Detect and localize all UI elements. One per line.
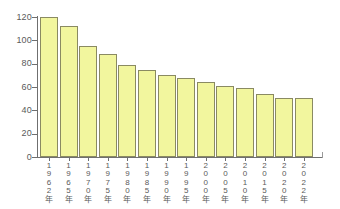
y-axis-tick-label: 0	[0, 153, 32, 162]
y-axis-tick-label: 40	[0, 106, 32, 115]
x-axis-tick-label: 1990年	[158, 162, 176, 204]
bar	[197, 82, 215, 157]
x-axis-tick-label: 2000年	[197, 162, 215, 204]
bar	[99, 54, 117, 157]
bar-column	[177, 12, 195, 157]
x-axis-tick-label: 1962年	[40, 162, 58, 204]
bar-column	[275, 12, 293, 157]
x-axis-tick-label-char: 年	[60, 196, 78, 204]
x-axis-tick-label: 1980年	[118, 162, 136, 204]
bar-column	[197, 12, 215, 157]
bar-chart: 020406080100120 1962年1965年1970年1975年1980…	[0, 0, 340, 209]
x-axis-tick-label-char: 年	[275, 196, 293, 204]
bar-column	[236, 12, 254, 157]
x-axis-tick-label: 2015年	[256, 162, 274, 204]
bar	[79, 46, 97, 157]
x-axis-tick-label-char: 年	[256, 196, 274, 204]
bar	[275, 98, 293, 158]
x-axis-tick-label-char: 年	[138, 196, 156, 204]
bar-column	[138, 12, 156, 157]
bar	[158, 75, 176, 157]
bar	[295, 98, 313, 158]
bar	[256, 94, 274, 157]
bar-column	[256, 12, 274, 157]
y-axis-tick-label: 20	[0, 129, 32, 138]
bar-column	[60, 12, 78, 157]
x-axis-tick-label-char: 年	[79, 196, 97, 204]
x-axis-tick-label: 1965年	[60, 162, 78, 204]
x-axis-end-cap	[322, 152, 323, 158]
y-axis-tick-label: 60	[0, 83, 32, 92]
x-axis-tick-label: 1995年	[177, 162, 195, 204]
bar-column	[158, 12, 176, 157]
x-axis-tick-label-char: 年	[118, 196, 136, 204]
bar	[60, 26, 78, 157]
x-axis-tick-label: 1975年	[99, 162, 117, 204]
x-axis-tick-label: 2020年	[275, 162, 293, 204]
bar-column	[118, 12, 136, 157]
y-axis-tick-label: 120	[0, 13, 32, 22]
bar	[216, 86, 234, 157]
bar	[118, 65, 136, 157]
bar-column	[216, 12, 234, 157]
x-axis-tick-label-char: 年	[158, 196, 176, 204]
x-axis-tick-label-char: 年	[197, 196, 215, 204]
x-axis-tick-label: 1985年	[138, 162, 156, 204]
x-axis-tick-label-char: 年	[177, 196, 195, 204]
x-axis-tick-label-char: 年	[99, 196, 117, 204]
x-axis-tick-label: 1970年	[79, 162, 97, 204]
y-axis-tick-label: 80	[0, 59, 32, 68]
x-axis-tick-label-char: 年	[236, 196, 254, 204]
x-axis-tick-label: 2005年	[216, 162, 234, 204]
bar-column	[79, 12, 97, 157]
bar-column	[99, 12, 117, 157]
x-axis-tick-label-char: 年	[40, 196, 58, 204]
x-axis-tick-label-char: 年	[216, 196, 234, 204]
x-axis-line	[37, 157, 323, 158]
bar-column	[295, 12, 313, 157]
plot-area	[38, 12, 313, 157]
y-axis-tick-label: 100	[0, 36, 32, 45]
bar	[138, 70, 156, 158]
bar	[40, 17, 58, 157]
y-axis-tick	[32, 157, 38, 158]
x-axis-tick-label: 2010年	[236, 162, 254, 204]
bar-column	[40, 12, 58, 157]
bar	[236, 88, 254, 157]
bar	[177, 78, 195, 157]
x-axis-tick-label-char: 年	[295, 196, 313, 204]
x-axis-tick-label: 2022年	[295, 162, 313, 204]
